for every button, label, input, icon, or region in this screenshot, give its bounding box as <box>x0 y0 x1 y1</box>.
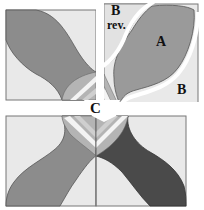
label-a: A <box>156 35 166 49</box>
label-c: C <box>90 101 101 116</box>
quadrant-top-left <box>6 10 96 100</box>
quilt-diagram <box>0 0 204 210</box>
label-b: B <box>177 83 186 97</box>
quadrant-bottom-left <box>6 116 96 206</box>
quadrant-bottom-right <box>96 116 186 206</box>
label-b-rev-letter: B <box>111 4 120 18</box>
label-b-rev-suffix: rev. <box>107 19 126 31</box>
